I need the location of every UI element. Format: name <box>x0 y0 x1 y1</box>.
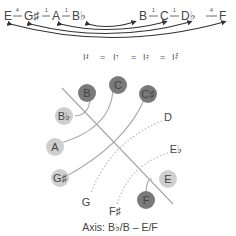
seq-note-c: C <box>160 9 169 23</box>
seq-note-gsharp: G♯ <box>24 9 39 23</box>
dotted-connectors <box>91 121 168 205</box>
symmetry-axis-line <box>62 88 173 204</box>
interval-5: 1 <box>173 7 176 13</box>
seq-note-f: F <box>219 9 226 23</box>
circle-label-bflat: B♭ <box>58 110 71 122</box>
seq-note-a: A <box>52 9 60 23</box>
interval-2: 1 <box>65 7 68 13</box>
pair-connectors <box>57 91 152 196</box>
circle-label-csharp: C♯ <box>141 88 155 100</box>
axis-diagram: E 4 G♯ 1 A 1 B♭ B 1 C 1 D♭ 4 F I𝄽 = I𝄾 =… <box>0 0 236 236</box>
label-d: D <box>164 111 172 123</box>
label-eflat: E♭ <box>170 143 183 155</box>
circle-label-b: B <box>83 87 90 99</box>
note-sequence: E 4 G♯ 1 A 1 B♭ B 1 C 1 D♭ 4 F <box>4 7 226 23</box>
plain-note-labels: D E♭ G F♯ <box>82 111 183 217</box>
seq-note-dflat: D♭ <box>181 9 195 23</box>
arc-gsharp-dflat <box>30 22 190 34</box>
svg-text:=: = <box>131 52 136 62</box>
equiv-item-3: I𝄿 <box>143 52 149 62</box>
mirror-arcs <box>10 22 224 38</box>
interval-1: 1 <box>45 7 48 13</box>
equiv-item-1: I𝄽 <box>83 52 89 62</box>
label-fsharp: F♯ <box>109 205 122 217</box>
circle-label-c: C <box>114 79 122 91</box>
arc-bflat-b <box>88 22 134 27</box>
label-g: G <box>82 196 91 208</box>
seq-note-e: E <box>4 9 12 23</box>
interval-4: 1 <box>152 7 155 13</box>
equiv-item-4: I𝅀 <box>172 52 179 62</box>
svg-text:=: = <box>160 52 165 62</box>
svg-text:=: = <box>100 52 105 62</box>
circle-label-a: A <box>51 141 59 153</box>
seq-note-b: B <box>139 9 147 23</box>
equiv-item-2: I𝄾 <box>113 52 119 62</box>
circle-label-f: F <box>143 194 150 206</box>
interval-6: 4 <box>210 7 213 13</box>
seq-note-bflat: B♭ <box>72 9 86 23</box>
circle-label-gsharp: G♯ <box>53 172 68 184</box>
axis-caption: Axis: B♭/B – E/F <box>82 221 158 233</box>
equivalence-row: I𝄽 = I𝄾 = I𝄿 = I𝅀 <box>83 52 179 62</box>
interval-0: 4 <box>16 7 19 13</box>
circle-label-e: E <box>164 173 171 185</box>
note-circles: B C C♯ B♭ A G♯ E F <box>46 76 177 209</box>
